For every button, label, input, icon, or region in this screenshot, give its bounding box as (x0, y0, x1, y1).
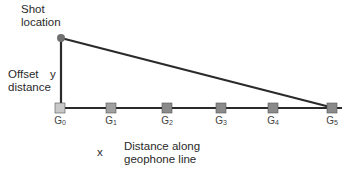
geophone-label-5: G5 (326, 115, 338, 126)
offset-label-line2: distance (8, 81, 51, 94)
distance-along-label: Distance along geophone line (124, 140, 200, 166)
distance-label-line2: geophone line (124, 153, 200, 166)
geophone-label-0: G0 (54, 115, 66, 126)
ray-path-line (61, 38, 334, 108)
geophone-marker-0 (55, 103, 65, 113)
shot-label-line1: Shot (21, 3, 61, 16)
geophone-label-4: G4 (267, 115, 279, 126)
geophone-marker-3 (216, 103, 226, 113)
geophone-label-2: G2 (161, 115, 173, 126)
geophone-label-3: G3 (215, 115, 227, 126)
shot-location-label: Shot location (21, 3, 61, 29)
shot-point-marker (57, 34, 65, 42)
x-symbol: x (97, 146, 103, 159)
y-symbol: y (50, 68, 56, 81)
offset-label-line1: Offset (8, 68, 51, 81)
geophone-marker-1 (106, 103, 116, 113)
geophone-label-1: G1 (105, 115, 117, 126)
geophone-marker-2 (162, 103, 172, 113)
geophone-marker-4 (268, 103, 278, 113)
offset-distance-label: Offset distance (8, 68, 51, 94)
geophone-marker-5 (327, 103, 337, 113)
distance-label-line1: Distance along (124, 140, 200, 153)
shot-label-line2: location (21, 16, 61, 29)
